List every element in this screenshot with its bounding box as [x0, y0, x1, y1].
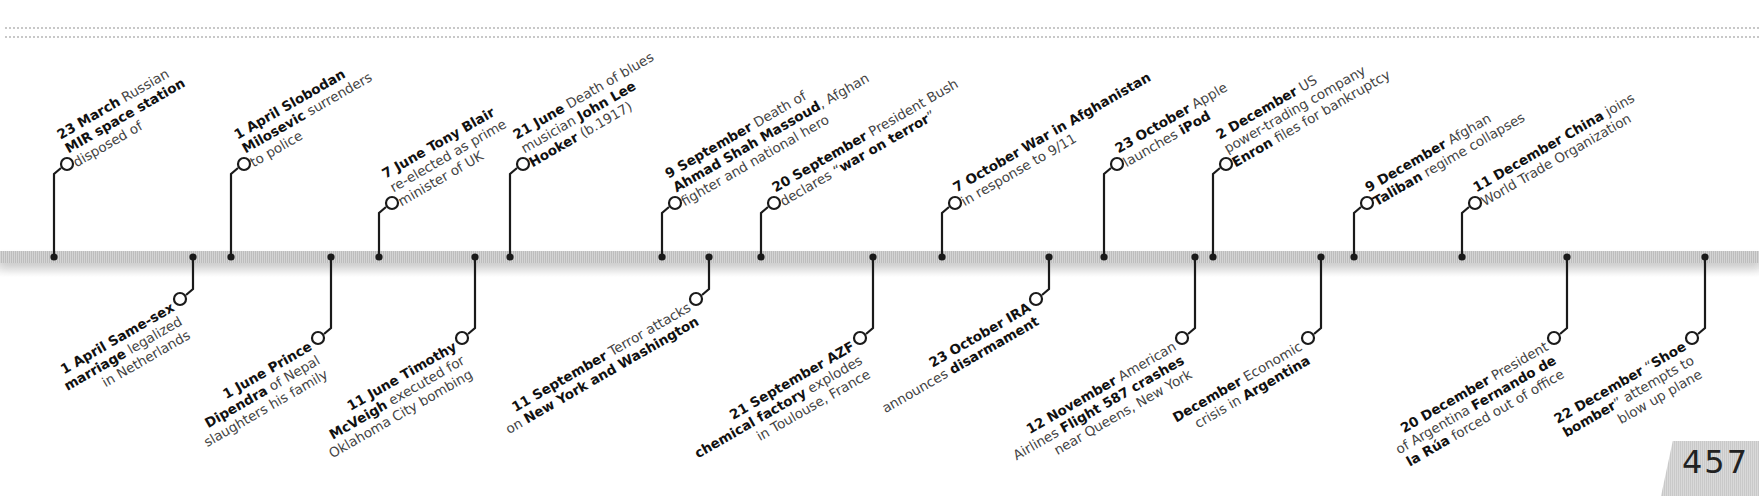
event-dot-icon [1100, 253, 1107, 260]
event-marker-above [1209, 158, 1232, 261]
event-marker-above [506, 158, 529, 261]
event-dot-icon [1209, 253, 1216, 260]
event-marker-below [854, 253, 877, 344]
event-dot-icon [471, 253, 478, 260]
event-circle-icon [1548, 332, 1560, 344]
event-dot-icon [506, 253, 513, 260]
event-circle-icon [1030, 293, 1042, 305]
event-dot-icon [375, 253, 382, 260]
event-circle-icon [1176, 332, 1188, 344]
event-dot-icon [1350, 253, 1357, 260]
event-marker-above [1458, 197, 1481, 261]
event-dot-icon [1317, 253, 1324, 260]
timeline-stems [0, 0, 1759, 496]
event-dot-icon [1458, 253, 1465, 260]
event-marker-above [1350, 197, 1373, 261]
event-marker-above [658, 197, 681, 261]
event-dot-icon [658, 253, 665, 260]
event-marker-below [690, 253, 713, 305]
event-dot-icon [327, 253, 334, 260]
event-marker-below [1176, 253, 1199, 344]
event-dot-icon [1191, 253, 1198, 260]
event-dot-icon [938, 253, 945, 260]
event-dot-icon [1701, 253, 1708, 260]
event-marker-below [174, 253, 197, 305]
event-marker-above [375, 197, 398, 261]
page-number: 457 [1682, 443, 1749, 481]
event-dot-icon [705, 253, 712, 260]
event-dot-icon [189, 253, 196, 260]
event-marker-above [1100, 158, 1123, 261]
event-marker-above [757, 197, 780, 261]
event-marker-below [1030, 253, 1053, 305]
event-circle-icon [854, 332, 866, 344]
event-dot-icon [1563, 253, 1570, 260]
event-marker-above [227, 158, 250, 261]
event-circle-icon [1686, 332, 1698, 344]
event-circle-icon [690, 293, 702, 305]
event-circle-icon [456, 332, 468, 344]
event-marker-below [312, 253, 335, 344]
event-marker-below [456, 253, 479, 344]
event-circle-icon [312, 332, 324, 344]
event-dot-icon [50, 253, 57, 260]
event-dot-icon [757, 253, 764, 260]
event-dot-icon [227, 253, 234, 260]
event-marker-below [1302, 253, 1325, 344]
event-dot-icon [869, 253, 876, 260]
event-marker-below [1548, 253, 1571, 344]
event-marker-above [938, 197, 961, 261]
event-circle-icon [1302, 332, 1314, 344]
event-marker-below [1686, 253, 1709, 344]
event-dot-icon [1045, 253, 1052, 260]
event-marker-above [50, 158, 73, 261]
event-circle-icon [174, 293, 186, 305]
